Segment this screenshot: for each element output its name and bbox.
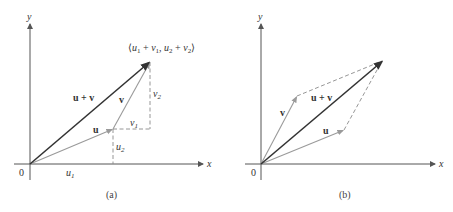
origin-label: 0: [19, 167, 24, 178]
u-label: u: [323, 125, 329, 136]
u-plus-v-label: u + v: [311, 92, 332, 103]
v1-label: v1: [130, 117, 138, 130]
y-axis-label: y: [257, 11, 263, 22]
vector-u: [261, 131, 343, 165]
vector-v: [261, 97, 297, 164]
origin-label: 0: [251, 167, 256, 178]
parallelogram-right-edge: [344, 61, 382, 130]
parallelogram-top-edge: [297, 61, 382, 96]
vector-u: [30, 130, 112, 165]
panel-a: x y 0 u + v v u ⟨u1 + v1, u2 + v2⟩ u1 u2…: [14, 11, 212, 201]
x-axis-label: x: [438, 158, 444, 169]
panel-b: x y 0 u + v v u (b): [245, 11, 444, 201]
vector-u-plus-v: [30, 63, 149, 165]
v2-label: v2: [153, 88, 161, 101]
point-label: ⟨u1 + v1, u2 + v2⟩: [128, 42, 195, 55]
u-plus-v-label: u + v: [73, 92, 94, 103]
u2-label: u2: [116, 141, 125, 154]
v-label: v: [119, 94, 124, 105]
caption-a: (a): [106, 189, 117, 201]
y-axis-label: y: [26, 11, 32, 22]
u-label: u: [93, 124, 99, 135]
u1-label: u1: [66, 167, 75, 180]
x-axis-label: x: [206, 158, 212, 169]
vector-addition-diagram: x y 0 u + v v u ⟨u1 + v1, u2 + v2⟩ u1 u2…: [0, 0, 453, 212]
v-label: v: [280, 107, 285, 118]
caption-b: (b): [339, 189, 351, 201]
